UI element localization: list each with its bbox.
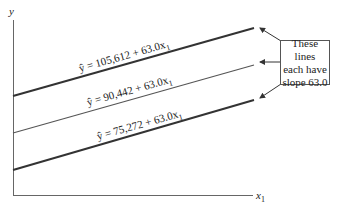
y-axis-label: y <box>8 5 14 17</box>
slope-callout-box: These lines each have slope 63.0 <box>280 40 330 85</box>
callout-line-1: These lines <box>281 37 329 63</box>
regression-line-bottom <box>13 100 254 170</box>
equation-bottom: ŷ = 75,272 + 63.0x1 <box>95 107 184 145</box>
arrow-to-top-line <box>260 28 281 41</box>
equation-top: ŷ = 105,612 + 63.0x1 <box>77 37 171 77</box>
callout-line-2: each have <box>283 63 327 76</box>
arrow-to-bottom-line <box>260 84 281 98</box>
callout-line-3: slope 63.0 <box>282 76 327 89</box>
x-axis-label: x1 <box>255 189 265 204</box>
diagram-canvas: y x1 ŷ = 105,612 + 63.0x1 ŷ = 90,442 + 6… <box>0 0 353 207</box>
